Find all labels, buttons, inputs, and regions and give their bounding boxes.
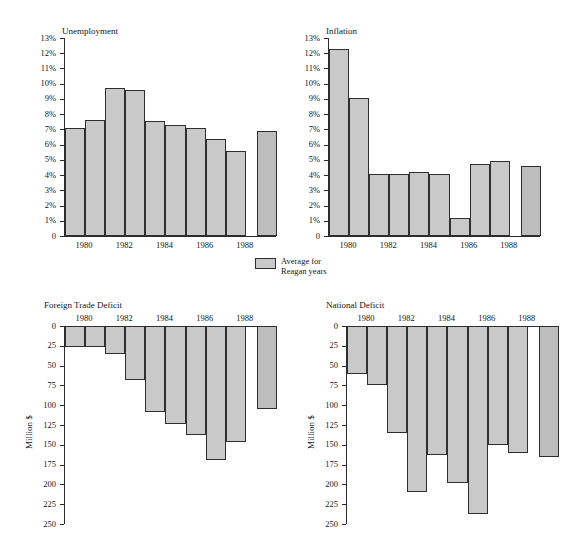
bar-1983 (125, 326, 145, 380)
y-tick (342, 385, 346, 386)
y-tick (324, 145, 328, 146)
y-tick (324, 221, 328, 222)
y-tick (324, 114, 328, 115)
y-tick (60, 221, 64, 222)
y-tick (60, 160, 64, 161)
y-tick-label: 10% (30, 79, 56, 88)
y-tick (324, 129, 328, 130)
chart-title-foreign-trade-deficit: Foreign Trade Deficit (44, 300, 122, 310)
y-tick (60, 206, 64, 207)
bar-1981 (85, 120, 105, 236)
x-tick-label: 1982 (104, 241, 144, 250)
legend-label: Average for Reagan years (281, 257, 327, 276)
bar-1985 (165, 326, 185, 424)
x-tick-label: 1986 (467, 314, 507, 323)
x-tick-label: 1980 (64, 241, 104, 250)
y-tick (60, 114, 64, 115)
bar-1985 (429, 174, 449, 236)
bar-1987 (488, 326, 508, 445)
y-tick-label: 9% (30, 94, 56, 103)
chart-title-inflation: Inflation (326, 26, 357, 36)
bar-1982 (105, 88, 125, 236)
y-tick-label: 0 (294, 232, 320, 241)
chart-panel-inflation: Inflation13%12%11%10%9%8%7%6%5%4%3%2%1%0… (300, 14, 554, 264)
y-tick-label: 8% (294, 110, 320, 119)
y-tick (324, 68, 328, 69)
y-tick (342, 346, 346, 347)
x-tick-label: 1986 (185, 241, 225, 250)
y-tick-label: 200 (312, 480, 338, 489)
bar-1988 (490, 161, 510, 236)
bar-average (257, 326, 277, 409)
y-tick (60, 405, 64, 406)
chart-title-national-deficit: National Deficit (326, 300, 384, 310)
bar-1986 (450, 218, 470, 236)
y-tick-label: 10% (294, 79, 320, 88)
y-tick (60, 326, 64, 327)
bar-1981 (85, 326, 105, 347)
chart-title-unemployment: Unemployment (62, 26, 118, 36)
bar-1984 (145, 121, 165, 236)
y-tick (324, 175, 328, 176)
x-axis-line (328, 236, 540, 237)
x-tick-label: 1984 (144, 314, 184, 323)
bar-1987 (206, 326, 226, 460)
y-tick-label: 7% (30, 125, 56, 134)
chart-panel-unemployment: Unemployment13%12%11%10%9%8%7%6%5%4%3%2%… (18, 14, 290, 264)
legend: Average for Reagan years (255, 257, 327, 276)
y-tick-label: 8% (30, 110, 56, 119)
y-tick (342, 484, 346, 485)
plot-area-unemployment: 13%12%11%10%9%8%7%6%5%4%3%2%1%0198019821… (64, 38, 276, 236)
x-tick-label: 1980 (328, 241, 368, 250)
y-tick-label: 50 (312, 361, 338, 370)
y-tick-label: 6% (30, 140, 56, 149)
y-tick-label: 175 (312, 460, 338, 469)
scan-artifact-text (18, 0, 538, 5)
bar-1981 (349, 98, 369, 236)
x-tick-label: 1982 (368, 241, 408, 250)
bar-average (539, 326, 559, 457)
bar-1982 (387, 326, 407, 433)
y-tick (60, 68, 64, 69)
x-tick-label: 1988 (507, 314, 547, 323)
plot-area-national-deficit: 0255075100125150175200225250198019821984… (346, 326, 558, 524)
plot-area-foreign-trade-deficit: 0255075100125150175200225250198019821984… (64, 326, 276, 524)
bar-1986 (186, 326, 206, 435)
y-tick-label: 225 (312, 500, 338, 509)
y-tick (342, 326, 346, 327)
x-tick-label: 1984 (426, 314, 466, 323)
bar-1988 (226, 326, 246, 442)
bar-1981 (367, 326, 387, 385)
y-axis-label-national-deficit: Million $ (306, 415, 316, 449)
bar-average (257, 131, 277, 236)
bar-1984 (427, 326, 447, 455)
bar-1988 (508, 326, 528, 453)
y-tick-label: 5% (30, 155, 56, 164)
y-tick (342, 425, 346, 426)
x-tick-label: 1984 (144, 241, 184, 250)
y-tick-label: 0 (312, 322, 338, 331)
y-tick (342, 366, 346, 367)
average-swatch-icon (255, 258, 276, 269)
y-tick (324, 99, 328, 100)
y-tick-label: 2% (294, 201, 320, 210)
y-tick-label: 25 (30, 341, 56, 350)
bar-1980 (329, 49, 349, 236)
y-tick (60, 484, 64, 485)
y-tick-label: 5% (294, 155, 320, 164)
y-tick (60, 53, 64, 54)
y-tick (342, 445, 346, 446)
bars-group (347, 326, 559, 524)
bar-1987 (206, 139, 226, 236)
y-tick (60, 385, 64, 386)
y-tick-label: 11% (30, 64, 56, 73)
y-tick-label: 225 (30, 500, 56, 509)
y-tick-label: 13% (30, 34, 56, 43)
bar-1986 (468, 326, 488, 514)
y-tick-label: 4% (294, 171, 320, 180)
bar-1984 (145, 326, 165, 412)
y-tick (60, 346, 64, 347)
y-tick (60, 175, 64, 176)
y-tick-label: 2% (30, 201, 56, 210)
